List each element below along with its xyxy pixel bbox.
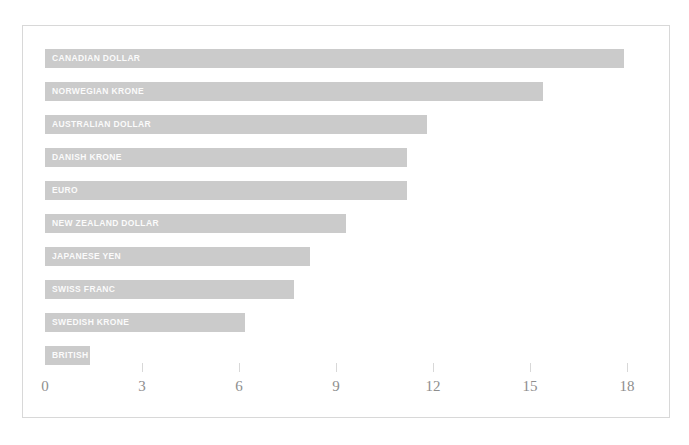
bar: NORWEGIAN KRONE: [45, 82, 543, 101]
bar-category-label: DANISH KRONE: [52, 153, 122, 162]
x-axis-tick-label: 6: [235, 379, 243, 394]
bar: SWISS FRANC: [45, 280, 294, 299]
bar-category-label: BRITISH: [52, 351, 88, 360]
x-axis-tick: [627, 363, 628, 372]
x-axis-tick-label: 18: [619, 379, 634, 394]
bar-row: AUSTRALIAN DOLLAR: [45, 110, 669, 143]
bar: CANADIAN DOLLAR: [45, 49, 624, 68]
bar-category-label: SWEDISH KRONE: [52, 318, 129, 327]
x-axis: 0369121518: [45, 363, 669, 409]
bar: AUSTRALIAN DOLLAR: [45, 115, 427, 134]
bar: SWEDISH KRONE: [45, 313, 245, 332]
x-axis-tick-label: 15: [522, 379, 537, 394]
bar-category-label: NEW ZEALAND DOLLAR: [52, 219, 159, 228]
bar-row: EURO: [45, 176, 669, 209]
bar: JAPANESE YEN: [45, 247, 310, 266]
bar-series: CANADIAN DOLLARNORWEGIAN KRONEAUSTRALIAN…: [45, 44, 669, 356]
bar-row: CANADIAN DOLLAR: [45, 44, 669, 77]
bar-category-label: EURO: [52, 186, 78, 195]
bar: EURO: [45, 181, 407, 200]
x-axis-tick-label: 12: [425, 379, 440, 394]
bar-category-label: JAPANESE YEN: [52, 252, 121, 261]
bar-row: SWEDISH KRONE: [45, 308, 669, 341]
bar-category-label: SWISS FRANC: [52, 285, 115, 294]
bar: NEW ZEALAND DOLLAR: [45, 214, 346, 233]
plot-area: CANADIAN DOLLARNORWEGIAN KRONEAUSTRALIAN…: [23, 26, 669, 417]
x-axis-tick: [142, 363, 143, 372]
x-axis-tick: [336, 363, 337, 372]
x-axis-tick: [239, 363, 240, 372]
bar-category-label: AUSTRALIAN DOLLAR: [52, 120, 151, 129]
x-axis-tick-label: 0: [41, 379, 49, 394]
chart-figure: CANADIAN DOLLARNORWEGIAN KRONEAUSTRALIAN…: [22, 25, 670, 418]
bar: DANISH KRONE: [45, 148, 407, 167]
x-axis-tick: [530, 363, 531, 372]
x-axis-tick: [433, 363, 434, 372]
bar-row: SWISS FRANC: [45, 275, 669, 308]
bar-category-label: CANADIAN DOLLAR: [52, 54, 140, 63]
bar-row: NEW ZEALAND DOLLAR: [45, 209, 669, 242]
bar-row: DANISH KRONE: [45, 143, 669, 176]
x-axis-tick-label: 3: [138, 379, 146, 394]
bar-row: JAPANESE YEN: [45, 242, 669, 275]
bar-category-label: NORWEGIAN KRONE: [52, 87, 144, 96]
x-axis-tick-label: 9: [332, 379, 340, 394]
bar-row: NORWEGIAN KRONE: [45, 77, 669, 110]
